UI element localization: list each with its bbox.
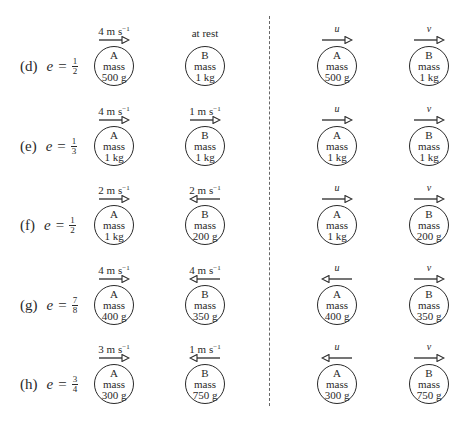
ball-mass-value: 350 g bbox=[193, 311, 218, 322]
ball-mass-value: 400 g bbox=[102, 311, 127, 322]
velocity-label: v bbox=[409, 182, 449, 194]
ball-name: A bbox=[333, 289, 341, 300]
velocity-value: 1 m s bbox=[189, 105, 213, 117]
fraction-numerator: 1 bbox=[69, 216, 76, 226]
velocity-before-b: 1 m s−1 bbox=[185, 103, 225, 124]
arrow-right-icon bbox=[409, 36, 449, 44]
velocity-before-a: 2 m s−1 bbox=[94, 182, 134, 203]
ball-mass-label: mass bbox=[418, 141, 440, 152]
arrow-left-icon bbox=[185, 195, 225, 203]
arrow-right-icon bbox=[94, 36, 134, 44]
arrow-left-icon bbox=[185, 354, 225, 362]
arrow-right-icon bbox=[317, 195, 357, 203]
velocity-label: u bbox=[317, 103, 357, 115]
part-letter: (g) bbox=[20, 297, 38, 314]
ball-mass-value: 750 g bbox=[417, 390, 442, 401]
velocity-after-a: u bbox=[317, 103, 357, 124]
velocity-exponent: −1 bbox=[122, 25, 129, 33]
arrow-right-icon bbox=[94, 275, 134, 283]
before-after-divider bbox=[269, 16, 270, 406]
restitution-symbol: e bbox=[47, 58, 54, 75]
fraction-denominator: 2 bbox=[70, 226, 75, 235]
ball-mass-label: mass bbox=[194, 300, 216, 311]
ball-mass-label: mass bbox=[418, 61, 440, 72]
velocity-exponent: −1 bbox=[213, 105, 220, 113]
velocity-after-b: v bbox=[409, 23, 449, 44]
restitution-fraction: 12 bbox=[69, 216, 76, 235]
restitution-symbol: e bbox=[44, 217, 51, 234]
fraction-numerator: 1 bbox=[72, 57, 79, 67]
ball-before-a: Amass500 g bbox=[94, 46, 134, 86]
ball-mass-label: mass bbox=[103, 141, 125, 152]
collision-row: (g)e=784 m s−1Amass400 g4 m s−1Bmass350 … bbox=[0, 262, 475, 342]
velocity-value: 2 m s bbox=[98, 184, 122, 196]
velocity-label: 2 m s−1 bbox=[185, 182, 225, 194]
velocity-value: 4 m s bbox=[98, 25, 122, 37]
velocity-label: 4 m s−1 bbox=[94, 23, 134, 35]
ball-name: A bbox=[110, 209, 118, 220]
velocity-label: 3 m s−1 bbox=[94, 341, 134, 353]
row-label: (h)e=34 bbox=[20, 369, 78, 399]
velocity-label: 4 m s−1 bbox=[185, 262, 225, 274]
velocity-label: u bbox=[317, 182, 357, 194]
ball-before-a: Amass300 g bbox=[94, 364, 134, 404]
ball-mass-value: 1 kg bbox=[327, 231, 346, 242]
velocity-value: u bbox=[335, 341, 340, 352]
collision-row: (f)e=122 m s−1Amass1 kg2 m s−1Bmass200 g… bbox=[0, 182, 475, 262]
ball-mass-label: mass bbox=[418, 300, 440, 311]
velocity-value: v bbox=[427, 182, 431, 193]
ball-before-b: Bmass750 g bbox=[185, 364, 225, 404]
fraction-denominator: 3 bbox=[72, 147, 77, 156]
velocity-value: at rest bbox=[192, 27, 219, 39]
ball-after-a: Amass300 g bbox=[317, 364, 357, 404]
ball-mass-value: 1 kg bbox=[327, 152, 346, 163]
ball-mass-value: 400 g bbox=[325, 311, 350, 322]
ball-after-b: Bmass1 kg bbox=[409, 46, 449, 86]
ball-name: B bbox=[425, 289, 432, 300]
ball-name: B bbox=[425, 368, 432, 379]
velocity-after-a: u bbox=[317, 262, 357, 283]
velocity-before-b: at rest bbox=[185, 27, 225, 39]
row-label: (g)e=78 bbox=[20, 290, 78, 320]
velocity-exponent: −1 bbox=[213, 343, 220, 351]
velocity-exponent: −1 bbox=[122, 343, 129, 351]
velocity-before-a: 4 m s−1 bbox=[94, 23, 134, 44]
ball-after-b: Bmass1 kg bbox=[409, 126, 449, 166]
equals-sign: = bbox=[58, 297, 66, 314]
ball-mass-label: mass bbox=[103, 379, 125, 390]
restitution-fraction: 13 bbox=[71, 137, 78, 156]
ball-mass-value: 300 g bbox=[325, 390, 350, 401]
velocity-label: u bbox=[317, 262, 357, 274]
fraction-denominator: 8 bbox=[73, 306, 78, 315]
restitution-fraction: 34 bbox=[72, 375, 79, 394]
velocity-after-b: v bbox=[409, 341, 449, 362]
ball-mass-label: mass bbox=[194, 379, 216, 390]
ball-name: A bbox=[333, 130, 341, 141]
velocity-after-a: u bbox=[317, 341, 357, 362]
ball-after-b: Bmass750 g bbox=[409, 364, 449, 404]
ball-before-b: Bmass1 kg bbox=[185, 46, 225, 86]
velocity-value: u bbox=[335, 103, 340, 114]
ball-name: B bbox=[201, 289, 208, 300]
fraction-numerator: 7 bbox=[72, 296, 79, 306]
ball-mass-value: 200 g bbox=[193, 231, 218, 242]
restitution-symbol: e bbox=[47, 297, 54, 314]
ball-mass-value: 1 kg bbox=[419, 72, 438, 83]
ball-mass-value: 1 kg bbox=[419, 152, 438, 163]
ball-mass-value: 1 kg bbox=[104, 152, 123, 163]
ball-mass-label: mass bbox=[103, 300, 125, 311]
ball-before-b: Bmass200 g bbox=[185, 205, 225, 245]
velocity-value: v bbox=[427, 103, 431, 114]
ball-mass-label: mass bbox=[103, 61, 125, 72]
ball-mass-label: mass bbox=[194, 220, 216, 231]
arrow-right-icon bbox=[409, 275, 449, 283]
velocity-after-a: u bbox=[317, 23, 357, 44]
ball-after-a: Amass500 g bbox=[317, 46, 357, 86]
velocity-value: 4 m s bbox=[98, 264, 122, 276]
ball-before-a: Amass400 g bbox=[94, 285, 134, 325]
velocity-value: 3 m s bbox=[98, 343, 122, 355]
equals-sign: = bbox=[58, 58, 66, 75]
velocity-label: 4 m s−1 bbox=[94, 262, 134, 274]
ball-mass-value: 300 g bbox=[102, 390, 127, 401]
velocity-label: 1 m s−1 bbox=[185, 341, 225, 353]
